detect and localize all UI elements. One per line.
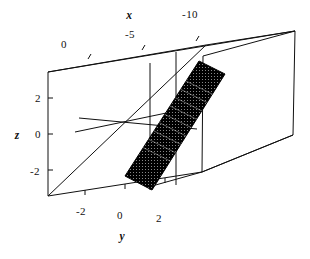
x-tick-minus10 [196,36,199,41]
z-axis-name: z [14,129,20,141]
x-tick-label-minus5: -5 [125,28,135,40]
box-edge-right-vertical-back [293,31,295,135]
x-tick-label-0: 0 [61,38,67,50]
z-tick-label-minus2: -2 [30,165,40,177]
x-tick-0 [88,54,91,59]
plot-canvas: 0 -5 -10 x 2 0 -2 z -2 0 2 y [0,0,310,259]
y-tick-label-0: 0 [117,209,123,221]
x-tick-label-minus10: -10 [182,8,198,20]
z-tick-label-2: 2 [35,92,41,104]
y-axis-name: y [117,230,125,243]
x-axis-name: x [125,9,132,21]
y-tick-label-minus2: -2 [76,205,86,217]
box-edge-bottom-right-far [202,135,293,172]
surface-sheet-fill [125,61,225,190]
z-tick-label-0: 0 [35,128,41,140]
x-tick-minus5 [142,45,145,50]
y-tick-label-2: 2 [156,212,162,224]
surface-plot-figure: 0 -5 -10 x 2 0 -2 z -2 0 2 y [0,0,310,259]
